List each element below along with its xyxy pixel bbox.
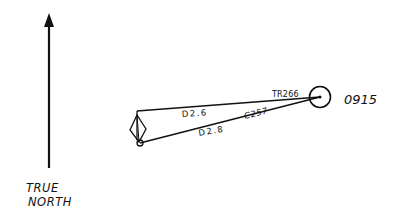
true-range-label: TR266	[271, 90, 299, 99]
distance-upper-label: D2.6	[181, 107, 208, 119]
north-label-line1: TRUE	[26, 181, 59, 195]
time-label: 0915	[344, 92, 377, 107]
distance-lower-label: D2.8	[198, 124, 225, 138]
bearing-lines	[137, 97, 320, 143]
north-arrow-icon	[44, 13, 54, 168]
course-label: C257	[243, 105, 269, 121]
north-label-line2: NORTH	[28, 195, 72, 209]
plotting-diagram: TRUE NORTH 0915 D2.6 D2.8 C257 TR266	[0, 0, 406, 223]
